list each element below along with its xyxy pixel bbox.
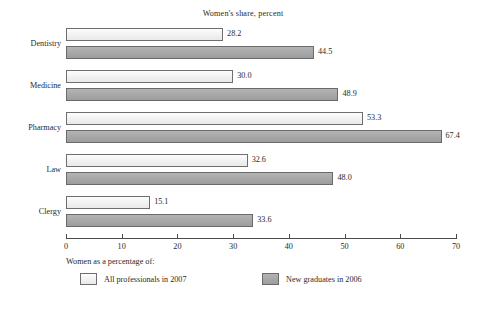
x-axis-tick: [400, 234, 401, 239]
x-axis-tick: [233, 234, 234, 239]
bar-group: Law32.648.0: [0, 154, 486, 185]
bar-value-label: 44.5: [314, 47, 332, 56]
chart-figure: Women's share, percent Dentistry28.244.5…: [0, 0, 486, 309]
bar-value-label: 48.9: [338, 89, 356, 98]
category-label-medicine: Medicine: [0, 81, 66, 90]
legend-title: Women as a percentage of:: [66, 257, 466, 266]
bar-row: 48.9: [66, 88, 456, 101]
bar-clergy-series-2: [66, 214, 253, 227]
bar-group: Pharmacy53.367.4: [0, 112, 486, 143]
bar-row: 28.2: [66, 28, 456, 41]
x-axis-tick: [289, 234, 290, 239]
legend-label: All professionals in 2007: [104, 275, 187, 284]
chart-legend: Women as a percentage of: All profession…: [66, 257, 466, 289]
x-axis-tick: [122, 234, 123, 239]
bar-value-label: 30.0: [233, 71, 251, 80]
bar-medicine-series-2: [66, 88, 338, 101]
bar-value-label: 28.2: [223, 29, 241, 38]
x-axis-tick-label: 10: [102, 242, 142, 251]
legend-item-2: New graduates in 2006: [262, 273, 362, 285]
bar-dentistry-series-1: [66, 28, 223, 41]
legend-item-1: All professionals in 2007: [80, 273, 187, 285]
bar-row: 33.6: [66, 214, 456, 227]
bar-clergy-series-1: [66, 196, 150, 209]
x-axis: 010203040506070: [66, 238, 456, 239]
bar-group: Medicine30.048.9: [0, 70, 486, 101]
legend-swatch-dark: [262, 273, 279, 285]
x-axis-tick: [456, 234, 457, 239]
plot-area: Dentistry28.244.5Medicine30.048.9Pharmac…: [0, 24, 486, 236]
x-axis-tick-label: 70: [436, 242, 476, 251]
bar-value-label: 32.6: [248, 155, 266, 164]
bar-value-label: 15.1: [150, 197, 168, 206]
bar-law-series-2: [66, 172, 333, 185]
category-label-pharmacy: Pharmacy: [0, 123, 66, 132]
bar-medicine-series-1: [66, 70, 233, 83]
x-axis-tick: [345, 234, 346, 239]
x-axis-tick-label: 40: [269, 242, 309, 251]
x-axis-tick-label: 0: [46, 242, 86, 251]
bar-law-series-1: [66, 154, 248, 167]
chart-title: Women's share, percent: [0, 9, 486, 18]
bar-row: 32.6: [66, 154, 456, 167]
legend-swatch-light: [80, 273, 97, 285]
x-axis-tick-label: 60: [380, 242, 420, 251]
bar-value-label: 48.0: [333, 173, 351, 182]
bar-group: Clergy15.133.6: [0, 196, 486, 227]
bar-row: 67.4: [66, 130, 456, 143]
bar-row: 48.0: [66, 172, 456, 185]
x-axis-tick-label: 50: [325, 242, 365, 251]
bar-row: 44.5: [66, 46, 456, 59]
bar-row: 30.0: [66, 70, 456, 83]
legend-label: New graduates in 2006: [286, 275, 362, 284]
bar-group: Dentistry28.244.5: [0, 28, 486, 59]
x-axis-tick-label: 20: [157, 242, 197, 251]
x-axis-tick-label: 30: [213, 242, 253, 251]
legend-items: All professionals in 2007New graduates i…: [66, 273, 466, 289]
bar-dentistry-series-2: [66, 46, 314, 59]
bar-value-label: 33.6: [253, 215, 271, 224]
x-axis-tick: [66, 234, 67, 239]
bar-value-label: 53.3: [363, 113, 381, 122]
x-axis-tick: [177, 234, 178, 239]
bar-row: 53.3: [66, 112, 456, 125]
category-label-dentistry: Dentistry: [0, 39, 66, 48]
bar-value-label: 67.4: [442, 131, 460, 140]
bar-pharmacy-series-2: [66, 130, 442, 143]
bar-pharmacy-series-1: [66, 112, 363, 125]
bar-row: 15.1: [66, 196, 456, 209]
category-label-clergy: Clergy: [0, 207, 66, 216]
category-label-law: Law: [0, 165, 66, 174]
